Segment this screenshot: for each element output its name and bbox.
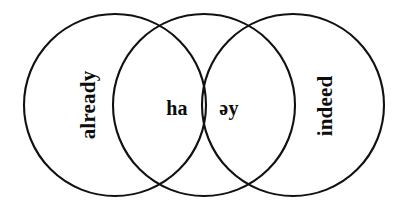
venn-circle-middle [113, 14, 295, 196]
venn-circles-group [0, 0, 408, 212]
venn-diagram-figure: already ha əy indeed [0, 0, 408, 212]
venn-label-right-circle: indeed [315, 76, 336, 137]
venn-label-right-intersection: əy [219, 98, 238, 118]
venn-label-left-circle: already [78, 71, 99, 140]
venn-label-left-intersection: ha [166, 98, 188, 118]
